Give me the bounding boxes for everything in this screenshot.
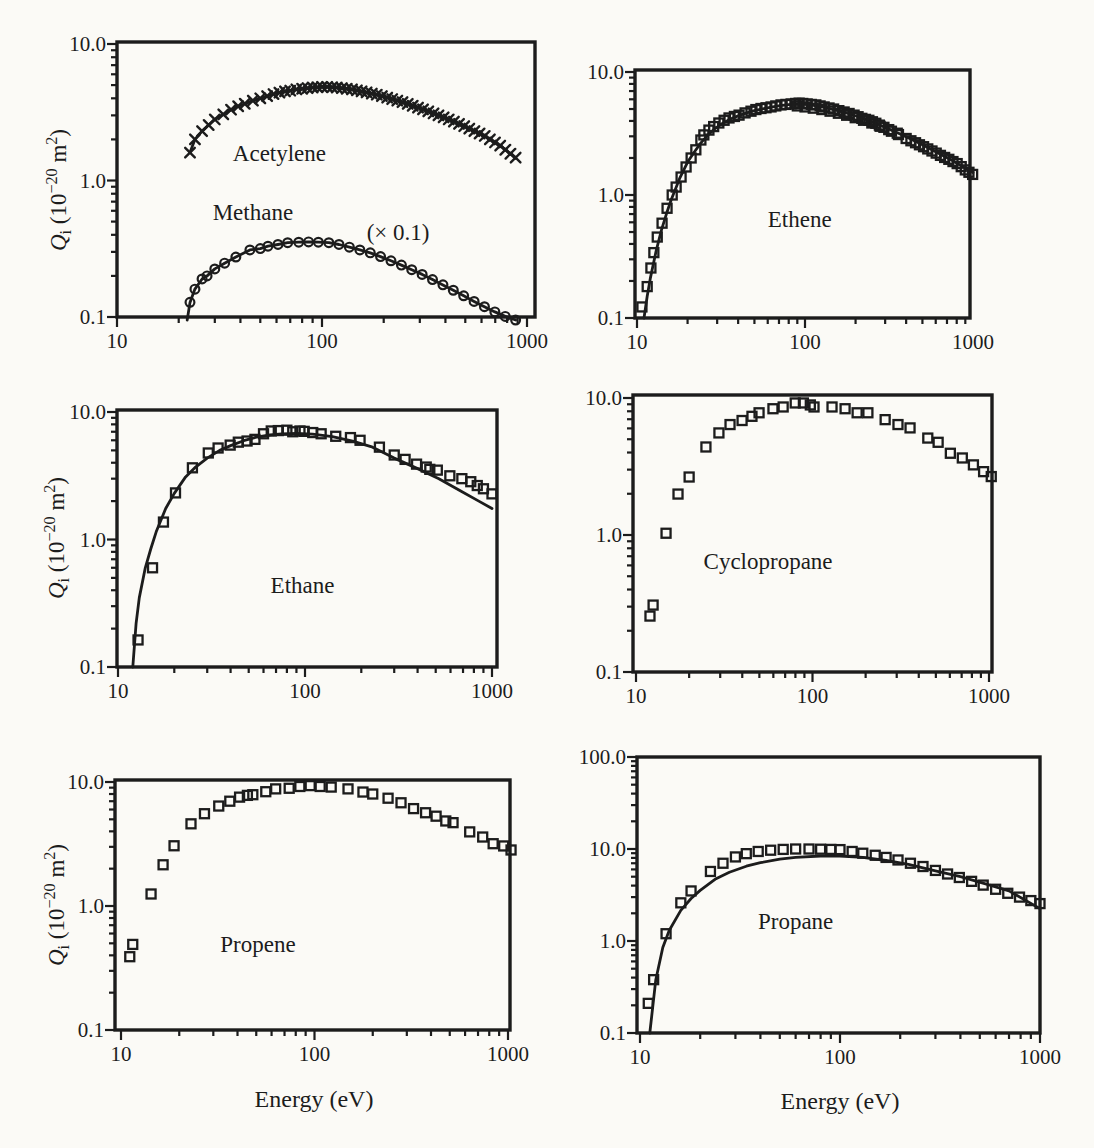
y-axis-label-middle: Qi (10−20 m2) — [35, 418, 65, 658]
y-tick-label: 10.0 — [587, 60, 624, 84]
square-marker — [662, 529, 671, 538]
series-markers — [644, 845, 1045, 1008]
square-marker — [432, 812, 441, 821]
square-marker — [881, 415, 890, 424]
annotation-cyclopropane: Cyclopropane — [704, 549, 833, 574]
square-marker — [714, 428, 723, 437]
x-tick-label: 100 — [289, 679, 321, 703]
square-marker — [969, 460, 978, 469]
y-label-exponent: −20 — [43, 168, 60, 193]
x-tick-label: 10 — [108, 679, 129, 703]
square-marker — [731, 852, 740, 861]
y-tick-label: 10.0 — [589, 837, 626, 861]
y-label-unit: m — [44, 493, 69, 517]
square-marker — [923, 434, 932, 443]
y-label-suffix: ) — [46, 129, 71, 137]
series-ethene-data — [637, 99, 977, 312]
y-label-subscript: i — [55, 945, 72, 949]
series-markers — [645, 398, 995, 620]
square-marker — [701, 442, 710, 451]
x-tick-label: 10 — [626, 684, 647, 708]
plot-frame — [637, 757, 1040, 1033]
panel-propene: 10100100010.01.00.1Propene — [67, 770, 529, 1066]
x-tick-label: 1000 — [952, 330, 994, 354]
y-tick-label: 0.1 — [600, 1021, 626, 1045]
x-tick-label: 10 — [630, 1045, 651, 1069]
y-tick-label: 10.0 — [69, 32, 106, 56]
figure-hydrocarbon-cross-sections: 10100100010.01.00.1AcetyleneMethane(× 0.… — [0, 0, 1094, 1148]
y-tick-label: 1.0 — [596, 523, 622, 547]
series-ethane-curve — [133, 433, 492, 667]
series-markers — [125, 781, 515, 961]
square-marker — [358, 788, 367, 797]
y-label-prefix: (10 — [46, 194, 71, 230]
y-tick-label: 10.0 — [69, 400, 106, 424]
y-label-unit: m — [44, 860, 69, 884]
y-label-exponent: −20 — [41, 516, 58, 541]
x-tick-label: 1000 — [487, 1042, 529, 1066]
square-marker — [779, 845, 788, 854]
y-axis-label-bottom: Qi (10−20 m2) — [35, 785, 65, 1025]
annotation-propene: Propene — [220, 932, 295, 957]
x-tick-label: 10 — [111, 1042, 132, 1066]
square-marker — [706, 867, 715, 876]
square-marker — [186, 819, 195, 828]
y-label-subscript: i — [57, 230, 74, 234]
y-tick-label: 0.1 — [598, 306, 624, 330]
y-label-suffix: ) — [44, 844, 69, 852]
panel-ethene: 10100100010.01.00.1Ethene — [587, 60, 994, 354]
y-label-unit: m — [46, 145, 71, 169]
square-marker — [327, 783, 336, 792]
square-marker — [779, 402, 788, 411]
y-tick-label: 1.0 — [598, 183, 624, 207]
plot-frame — [633, 395, 992, 672]
y-tick-label: 0.1 — [80, 655, 106, 679]
square-marker — [271, 784, 280, 793]
square-marker — [726, 420, 735, 429]
square-marker — [170, 841, 179, 850]
x-tick-label: 10 — [627, 330, 648, 354]
square-marker — [738, 416, 747, 425]
square-marker — [214, 802, 223, 811]
annotation-propane: Propane — [758, 909, 833, 934]
square-marker — [344, 784, 353, 793]
x-tick-label: 100 — [824, 1045, 856, 1069]
square-marker — [465, 827, 474, 836]
square-marker — [261, 787, 270, 796]
series-propane-curve — [650, 856, 1040, 1033]
square-marker — [159, 860, 168, 869]
x-tick-label: 100 — [797, 684, 829, 708]
annotation-methane: Methane — [213, 200, 293, 225]
x-axis-label-right: Energy (eV) — [720, 1088, 960, 1118]
square-marker — [946, 449, 955, 458]
x-tick-label: 100 — [306, 329, 338, 353]
square-marker — [816, 845, 825, 854]
y-tick-label: 100.0 — [579, 745, 626, 769]
series-ethane-data — [134, 426, 497, 645]
square-marker — [489, 839, 498, 848]
y-label-unit-exponent: 2 — [41, 485, 58, 493]
y-label-unit-exponent: 2 — [41, 852, 58, 860]
panel-cyclopropane: 10100100010.01.00.1Cyclopropane — [585, 386, 1010, 708]
y-label-suffix: ) — [44, 477, 69, 485]
square-marker — [863, 408, 872, 417]
x-marker — [511, 153, 521, 163]
series-propane-data — [644, 845, 1045, 1008]
square-marker — [147, 889, 156, 898]
y-label-subscript: i — [55, 578, 72, 582]
y-label-prefix: (10 — [44, 909, 69, 945]
y-label-prefix: (10 — [44, 542, 69, 578]
annotation-ethene: Ethene — [768, 207, 832, 232]
y-label-exponent: −20 — [41, 883, 58, 908]
series-cyclopropane-data — [645, 398, 995, 620]
square-marker — [397, 798, 406, 807]
square-marker — [409, 804, 418, 813]
annotation-acetylene: Acetylene — [233, 141, 326, 166]
square-marker — [645, 612, 654, 621]
y-tick-label: 0.1 — [596, 660, 622, 684]
square-marker — [445, 471, 454, 480]
square-marker — [848, 847, 857, 856]
square-marker — [685, 473, 694, 482]
square-marker — [826, 845, 835, 854]
y-tick-label: 10.0 — [67, 770, 104, 794]
